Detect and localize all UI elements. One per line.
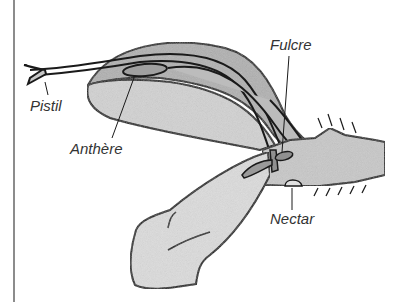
- flower-diagram: [0, 0, 401, 302]
- label-anthere: Anthère: [70, 140, 123, 157]
- pistil-stigma: [24, 65, 46, 84]
- leader-pistil: [45, 82, 48, 95]
- label-nectar: Nectar: [270, 210, 314, 227]
- label-fulcre: Fulcre: [270, 36, 312, 53]
- label-pistil: Pistil: [30, 97, 62, 114]
